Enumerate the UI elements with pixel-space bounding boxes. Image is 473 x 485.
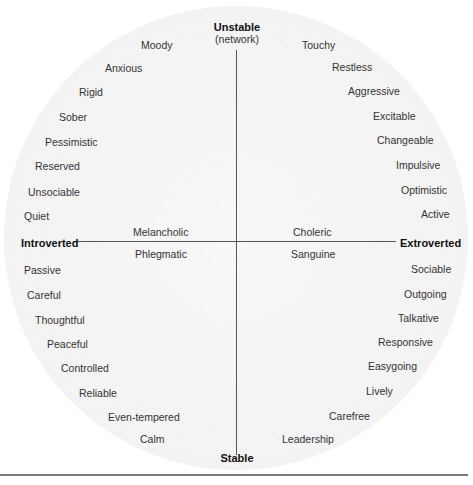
- trait-label: Rigid: [79, 86, 103, 98]
- trait-label: Outgoing: [404, 288, 447, 300]
- temperament-melancholic: Melancholic: [133, 226, 188, 238]
- trait-label: Peaceful: [47, 338, 88, 350]
- trait-label: Talkative: [398, 312, 439, 324]
- trait-label: Aggressive: [348, 85, 400, 97]
- trait-label: Restless: [332, 61, 372, 73]
- bottom-divider: [0, 474, 468, 476]
- pole-introverted: Introverted: [21, 237, 78, 249]
- trait-label: Active: [421, 208, 450, 220]
- trait-label: Easygoing: [368, 360, 417, 372]
- temperament-choleric: Choleric: [293, 226, 332, 238]
- temperament-sanguine: Sanguine: [291, 248, 335, 260]
- trait-label: Optimistic: [401, 184, 447, 196]
- trait-label: Moody: [141, 39, 173, 51]
- trait-label: Thoughtful: [35, 314, 85, 326]
- trait-label: Sociable: [411, 263, 451, 275]
- trait-label: Excitable: [373, 110, 416, 122]
- trait-label: Quiet: [24, 210, 49, 222]
- trait-label: Anxious: [105, 62, 142, 74]
- pole-stable: Stable: [220, 452, 253, 464]
- trait-label: Responsive: [378, 336, 433, 348]
- pole-unstable-subtitle: (network): [215, 33, 259, 45]
- stable-unstable-axis: [236, 50, 237, 455]
- temperament-phlegmatic: Phlegmatic: [135, 248, 187, 260]
- pole-unstable: Unstable: [214, 21, 260, 33]
- trait-label: Sober: [59, 111, 87, 123]
- trait-label: Carefree: [329, 410, 370, 422]
- trait-label: Reserved: [35, 160, 80, 172]
- trait-label: Touchy: [302, 39, 335, 51]
- trait-label: Unsociable: [28, 186, 80, 198]
- trait-label: Controlled: [61, 362, 109, 374]
- trait-label: Pessimistic: [45, 136, 98, 148]
- trait-label: Passive: [24, 264, 61, 276]
- trait-label: Reliable: [79, 387, 117, 399]
- trait-label: Careful: [27, 289, 61, 301]
- trait-label: Even-tempered: [108, 411, 180, 423]
- trait-label: Calm: [140, 433, 165, 445]
- trait-label: Lively: [366, 385, 393, 397]
- trait-label: Changeable: [377, 134, 434, 146]
- introvert-extrovert-axis: [74, 241, 396, 242]
- trait-label: Leadership: [282, 433, 334, 445]
- pole-extroverted: Extroverted: [400, 237, 461, 249]
- trait-label: Impulsive: [396, 159, 440, 171]
